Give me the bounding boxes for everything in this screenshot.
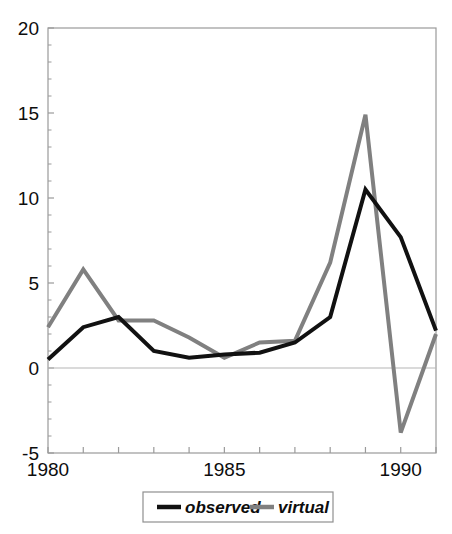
legend-label-observed: observed: [185, 498, 261, 517]
y-tick-label: 20: [18, 18, 39, 39]
chart-container: 20151050-5 198019851990 observed virtual: [0, 0, 452, 534]
y-tick-label: 5: [28, 273, 39, 294]
legend-label-virtual: virtual: [278, 498, 330, 517]
line-chart: 20151050-5 198019851990 observed virtual: [0, 0, 452, 534]
x-tick-label: 1990: [380, 459, 422, 480]
x-tick-label: 1985: [203, 459, 245, 480]
y-tick-label: 0: [28, 358, 39, 379]
x-tick-label: 1980: [27, 459, 69, 480]
y-tick-label: 10: [18, 188, 39, 209]
chart-legend: observed virtual: [143, 492, 333, 522]
y-tick-label: 15: [18, 103, 39, 124]
